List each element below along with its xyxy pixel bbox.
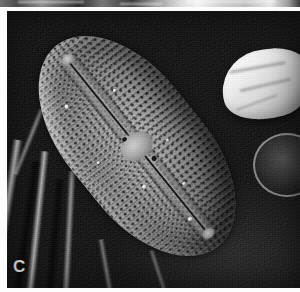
page-margin-bottom	[0, 288, 300, 292]
sem-figure-panel: C	[0, 0, 300, 292]
panel-above-strip	[0, 0, 300, 7]
micrograph-image	[7, 11, 300, 288]
panel-label: C	[13, 258, 26, 275]
page-margin-left	[0, 7, 7, 292]
